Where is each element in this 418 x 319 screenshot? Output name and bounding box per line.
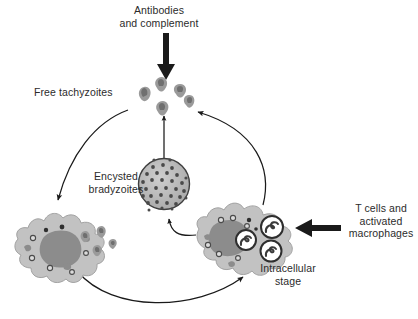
label-encysted-bradyzoites: Encysted bradyzoites xyxy=(76,170,156,195)
arrow-left-cell-to-right-cell xyxy=(78,272,243,303)
parasitophorous-vacuole xyxy=(261,241,282,262)
parasitophorous-vacuole xyxy=(261,216,283,238)
tachyzoite xyxy=(156,101,168,116)
life-cycle-diagram: Antibodies and complement Free tachyzoit… xyxy=(0,0,418,319)
arrow-tcells-to-infected-cell xyxy=(295,219,341,237)
arrow-right-cell-to-tachyzoites xyxy=(198,112,265,205)
label-antibodies-and-complement: Antibodies and complement xyxy=(97,4,221,29)
arrow-antibodies-to-tachyzoites xyxy=(157,33,175,80)
tachyzoite xyxy=(155,77,167,92)
parasitophorous-vacuole xyxy=(236,230,256,250)
tachyzoite xyxy=(184,95,195,108)
tachyzoite xyxy=(109,239,117,249)
tachyzoite xyxy=(174,84,186,98)
tachyzoite xyxy=(139,87,151,101)
label-intracellular-stage: Intracellular stage xyxy=(244,262,332,287)
host-cell-left xyxy=(15,213,117,282)
diagram-canvas xyxy=(0,0,418,319)
arrow-right-cell-to-cyst xyxy=(169,219,196,235)
label-t-cells-and-activated-macrophages: T cells and activated macrophages xyxy=(344,202,418,240)
label-free-tachyzoites: Free tachyzoites xyxy=(34,86,138,99)
free-tachyzoite-cluster xyxy=(139,77,195,116)
